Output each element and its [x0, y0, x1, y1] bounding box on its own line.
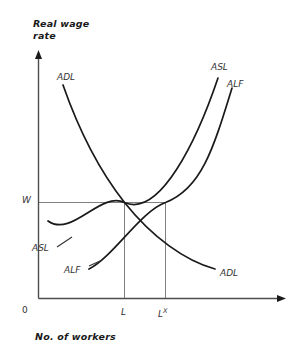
x-axis-title: No. of workers: [35, 331, 116, 343]
labour-force-axis-label: LX: [158, 307, 167, 319]
diagram-canvas: [0, 0, 299, 357]
asl-top-label: ASL: [211, 62, 228, 72]
wage-axis-label: W: [22, 195, 31, 205]
labour-force-superscript: X: [163, 307, 167, 315]
alf-curve: [89, 88, 232, 269]
y-axis-arrowhead: [35, 50, 42, 59]
asl-bottom-leader: [57, 237, 72, 247]
origin-label: 0: [22, 305, 28, 315]
alf-top-label: ALF: [227, 79, 243, 89]
adl-bottom-label: ADL: [220, 268, 238, 278]
labour-market-diagram: Real wage rate No. of workers 0 W L LX A…: [0, 0, 299, 357]
asl-bottom-label: ASL: [32, 243, 49, 253]
adl-curve: [63, 85, 215, 269]
axes: [39, 57, 280, 299]
adl-top-label: ADL: [57, 72, 75, 82]
employment-axis-label: L: [121, 307, 126, 317]
x-axis-arrowhead: [277, 295, 286, 302]
alf-bottom-label: ALF: [64, 265, 80, 275]
guide-lines: [38, 203, 166, 299]
y-axis-title: Real wage rate: [33, 18, 90, 42]
